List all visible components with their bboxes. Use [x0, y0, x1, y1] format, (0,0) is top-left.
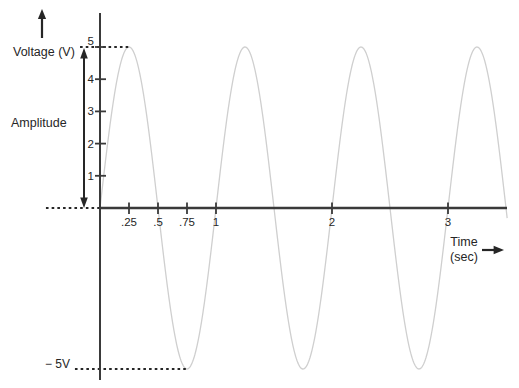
y-axis-title: Voltage (V)	[13, 45, 75, 59]
x-tick-label-3: 3	[445, 216, 451, 228]
x-tick-label-.75: .75	[179, 216, 195, 228]
x-tick-label-1: 1	[213, 216, 219, 228]
y-tick-label-5: 5	[88, 35, 94, 47]
amplitude-arrow-down-icon	[80, 198, 88, 209]
voltage-up-arrow-icon	[38, 9, 46, 19]
y-tick-label-1: 1	[88, 170, 94, 182]
x-axis-title-block: Time (sec)	[440, 235, 488, 265]
time-right-arrow-icon	[494, 246, 504, 255]
negative-peak-label: − 5V	[45, 357, 70, 371]
sine-wave-figure: .25.5.7512312345 Voltage (V) Amplitude −…	[0, 0, 519, 388]
waveform-plot: .25.5.7512312345	[0, 0, 519, 388]
x-tick-label-2: 2	[329, 216, 335, 228]
y-tick-label-3: 3	[88, 105, 94, 117]
x-tick-label-.5: .5	[153, 216, 163, 228]
x-tick-label-.25: .25	[121, 216, 137, 228]
y-tick-label-2: 2	[88, 138, 94, 150]
amplitude-arrow-up-icon	[80, 48, 88, 59]
x-axis-title: Time	[440, 235, 488, 250]
x-axis-units: (sec)	[440, 250, 488, 265]
y-tick-label-4: 4	[88, 73, 95, 85]
amplitude-label: Amplitude	[11, 116, 67, 130]
